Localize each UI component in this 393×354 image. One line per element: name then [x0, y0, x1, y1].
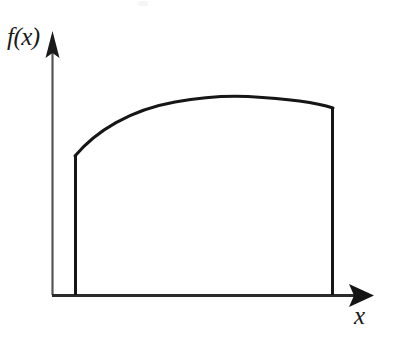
figure-container: f(x) x: [0, 0, 393, 354]
function-area-diagram: [0, 0, 393, 354]
function-curve: [75, 96, 333, 156]
x-axis-label: x: [354, 303, 365, 328]
y-axis-label: f(x): [7, 24, 40, 49]
